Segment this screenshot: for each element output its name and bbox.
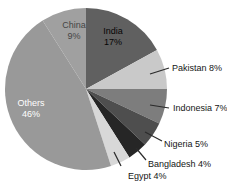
pie-label-nigeria: Nigeria 5%: [164, 139, 208, 149]
chart-figure: India17%Pakistan 8%Indonesia 7%Nigeria 5…: [0, 0, 227, 183]
population-pie-chart: India17%Pakistan 8%Indonesia 7%Nigeria 5…: [0, 0, 227, 183]
pie-label-indonesia: Indonesia 7%: [173, 103, 227, 113]
pie-slices: [5, 8, 167, 170]
pie-label-pakistan: Pakistan 8%: [172, 63, 222, 73]
pie-label-egypt: Egypt 4%: [128, 171, 167, 181]
leader-line-bangladesh: [136, 148, 146, 160]
pie-label-india: India17%: [103, 26, 123, 47]
pie-label-bangladesh: Bangladesh 4%: [148, 159, 211, 169]
